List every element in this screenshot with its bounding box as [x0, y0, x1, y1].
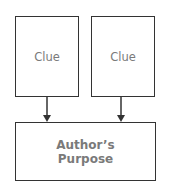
arrowhead-icon: [43, 115, 51, 122]
clue-label: Clue: [34, 50, 60, 64]
label-line-1: Author’s: [56, 138, 114, 152]
clue-label: Clue: [110, 50, 136, 64]
authors-purpose-box: Author’s Purpose: [15, 122, 156, 181]
label-line-2: Purpose: [56, 152, 114, 166]
clue-box-2: Clue: [91, 16, 155, 97]
clue-box-1: Clue: [15, 16, 79, 97]
authors-purpose-label: Author’s Purpose: [56, 138, 114, 166]
arrowhead-icon: [117, 115, 125, 122]
